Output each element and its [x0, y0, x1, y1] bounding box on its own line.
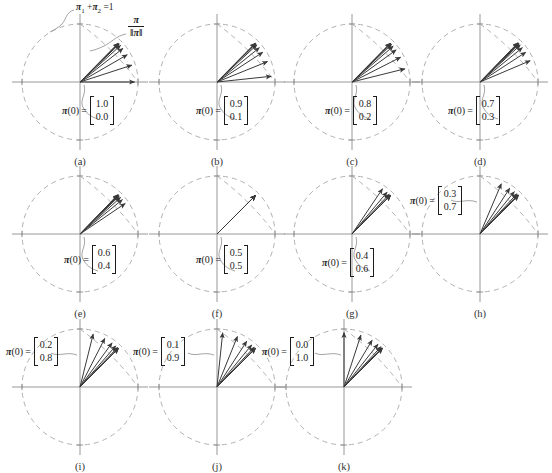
pi0-component-2: 0.3	[482, 111, 495, 124]
probability-vector	[344, 344, 378, 387]
panel-g: (g)	[280, 162, 424, 306]
pi0-label-f: π(0)=0.50.5	[196, 245, 248, 274]
pi0-component-1: 0.8	[359, 98, 372, 111]
vector-group	[344, 332, 383, 387]
fraction-numerator: π	[130, 14, 141, 26]
pi0-component-2: 0.9	[167, 352, 180, 365]
pi-argument: (0)	[201, 106, 213, 116]
column-vector-f: 0.50.5	[224, 245, 249, 274]
column-vector-c: 0.80.2	[353, 96, 378, 125]
pi0-component-2: 0.7	[444, 201, 457, 214]
pi0-component-2: 0.0	[96, 111, 109, 124]
probability-vector	[80, 348, 119, 387]
vector-group	[480, 184, 519, 234]
pi0-label-i: π(0)=0.20.8	[6, 337, 58, 366]
vector-group	[80, 334, 119, 387]
panel-c: (c)	[280, 10, 424, 154]
panel-h: (h)	[408, 162, 552, 306]
pi0-label-d: π(0)=0.70.3	[448, 96, 500, 125]
equals-sign: =	[152, 347, 158, 357]
pi0-label-h: π(0)=0.30.7	[410, 186, 462, 215]
probability-vector	[352, 50, 396, 82]
pi-argument: (0)	[67, 106, 79, 116]
vector-group	[80, 43, 135, 82]
fraction-denominator: ‖π‖	[128, 27, 144, 39]
column-vector-b: 0.90.1	[224, 96, 249, 125]
pi-argument: (0)	[327, 258, 339, 268]
equals-sign: =	[215, 255, 221, 265]
equals-sign: =	[25, 347, 31, 357]
normalized-vector-annotation: π‖π‖	[128, 14, 144, 38]
column-vector-h: 0.30.7	[438, 186, 463, 215]
panel-caption-j: (j)	[145, 461, 289, 472]
pi-argument: (0)	[69, 255, 81, 265]
pi0-component-2: 0.4	[98, 260, 111, 273]
pi-argument: (0)	[267, 347, 279, 357]
vector-group	[217, 195, 256, 234]
probability-vector	[80, 204, 125, 234]
column-vector-i: 0.20.8	[34, 337, 59, 366]
pi0-component-2: 1.0	[296, 352, 309, 365]
pi0-component-1: 0.4	[356, 250, 369, 263]
pi-argument: (0)	[415, 196, 427, 206]
probability-vector	[480, 52, 526, 82]
pi0-component-1: 0.0	[296, 339, 309, 352]
vector-group	[217, 333, 256, 387]
pi0-component-2: 0.1	[230, 111, 243, 124]
pi0-component-2: 0.8	[40, 352, 53, 365]
pi-argument: (0)	[453, 106, 465, 116]
probability-vector	[217, 48, 259, 82]
equals-sign: =	[467, 106, 473, 116]
pi0-component-1: 0.7	[482, 98, 495, 111]
equals-sign: =	[281, 347, 287, 357]
vector-group	[352, 43, 405, 82]
column-vector-g: 0.40.6	[350, 248, 375, 277]
probability-vector	[480, 195, 519, 234]
probability-vector	[480, 43, 518, 82]
pi0-component-1: 0.9	[230, 98, 243, 111]
pi0-label-c: π(0)=0.80.2	[325, 96, 377, 125]
probability-vector	[80, 343, 112, 387]
pi0-label-g: π(0)=0.40.6	[322, 248, 374, 277]
pi0-label-b: π(0)=0.90.1	[196, 96, 248, 125]
probability-vector	[80, 195, 118, 234]
equals-sign: =	[83, 255, 89, 265]
equals-sign: =	[429, 196, 435, 206]
callout-leader	[188, 353, 214, 355]
panel-caption-k: (k)	[272, 461, 416, 472]
pi0-component-2: 0.2	[359, 111, 372, 124]
panel-d: (d)	[408, 10, 552, 154]
probability-vector	[80, 48, 123, 82]
probability-vector	[480, 184, 501, 234]
equals-sign: =	[81, 106, 87, 116]
pi0-component-1: 0.6	[98, 247, 111, 260]
column-vector-a: 1.00.0	[90, 96, 115, 125]
probability-vector	[480, 61, 530, 82]
probability-vector	[352, 43, 390, 82]
vector-group	[352, 189, 391, 234]
panel-b: (b)	[145, 10, 289, 154]
pi0-component-2: 0.5	[230, 260, 243, 273]
column-vector-j: 0.10.9	[161, 337, 186, 366]
equals-sign: =	[341, 258, 347, 268]
pi0-component-1: 0.5	[230, 247, 243, 260]
pi0-component-1: 1.0	[96, 98, 109, 111]
panel-caption-i: (i)	[8, 461, 152, 472]
pi-argument: (0)	[330, 106, 342, 116]
pi-argument: (0)	[201, 255, 213, 265]
pi0-label-e: π(0)=0.60.4	[64, 245, 116, 274]
column-vector-k: 0.01.0	[290, 337, 315, 366]
panel-f: (f)	[145, 162, 289, 306]
vector-group	[217, 43, 271, 82]
pi-argument: (0)	[11, 347, 23, 357]
probability-vector	[352, 195, 391, 234]
column-vector-d: 0.70.3	[476, 96, 501, 125]
pi0-component-1: 0.3	[444, 188, 457, 201]
panel-e: (e)	[8, 162, 152, 306]
probability-vector	[480, 188, 510, 234]
pi0-component-1: 0.2	[40, 339, 53, 352]
probability-vector	[217, 348, 256, 387]
callout-leader	[315, 353, 341, 355]
equals-sign: =	[215, 106, 221, 116]
